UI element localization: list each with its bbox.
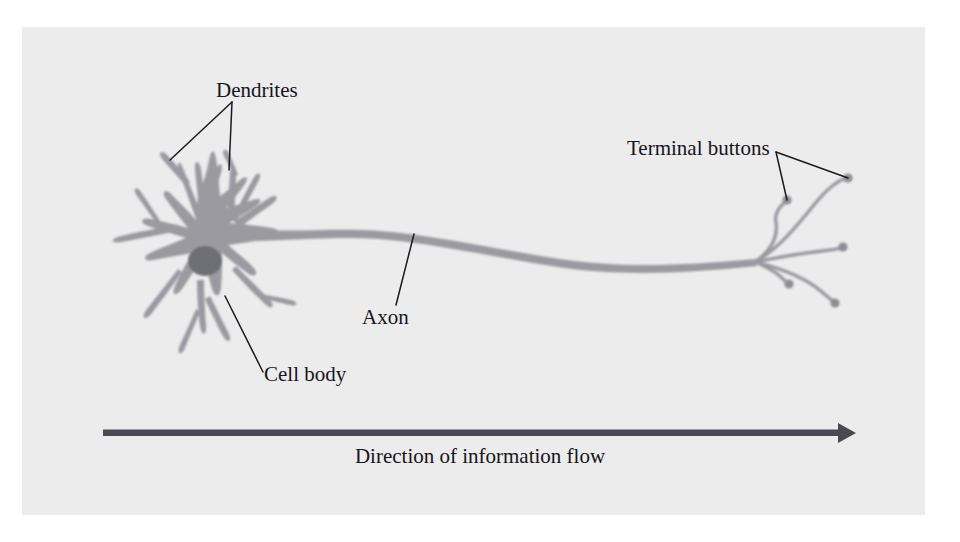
label-flow-caption: Direction of information flow — [0, 444, 960, 469]
leader-dendrites-left — [170, 102, 232, 160]
flow-arrow-head — [838, 423, 856, 443]
label-terminal-buttons: Terminal buttons — [627, 136, 770, 161]
dendrite-lower-center-c — [179, 309, 200, 353]
leader-axon — [396, 234, 414, 305]
flow-arrow — [103, 423, 856, 443]
dendrite-lower-center-b — [205, 296, 230, 341]
terminal-branches — [755, 178, 846, 303]
label-axon: Axon — [362, 305, 409, 330]
neuron-shape — [112, 150, 852, 354]
terminal-button-5 — [830, 298, 839, 307]
label-dendrites: Dendrites — [216, 78, 298, 103]
leader-terminal-left — [776, 152, 787, 200]
dendrite-left-lateral — [112, 226, 173, 242]
leader-terminal-right — [776, 152, 848, 178]
terminal-button-3 — [838, 242, 847, 251]
flow-arrow-shaft — [103, 430, 840, 437]
dendrite-lower-center — [197, 280, 206, 334]
axon-shape — [252, 230, 757, 273]
figure-root: Dendrites Terminal buttons Axon Cell bod… — [0, 0, 960, 542]
leader-cell-body — [225, 296, 263, 372]
dendrite-upper-left-branch — [160, 152, 190, 186]
terminal-button-4 — [784, 279, 793, 288]
label-cell-body: Cell body — [264, 362, 346, 387]
nucleus-shape — [188, 246, 222, 276]
